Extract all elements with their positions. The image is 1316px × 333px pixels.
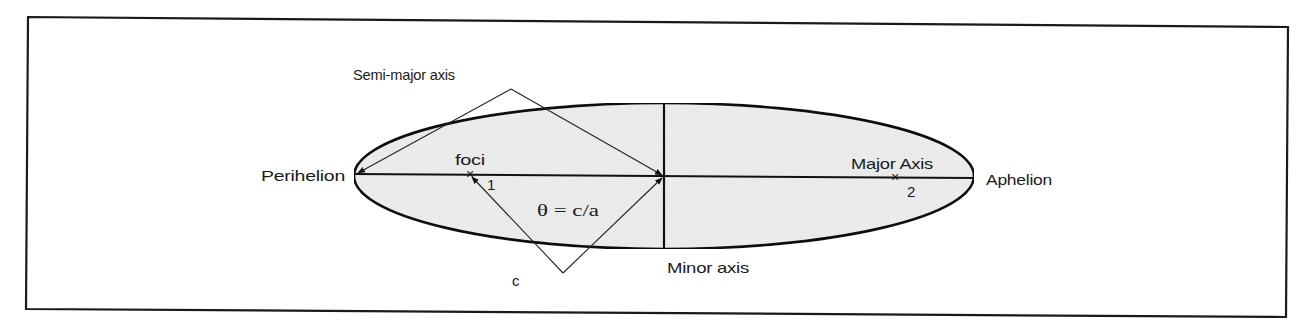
diagram-canvas: × × Semi-major axis Perihelion Aphelion … (0, 0, 1316, 333)
aphelion-label: Aphelion (986, 171, 1052, 188)
focus-1-marker-icon: × (466, 166, 474, 182)
c-label: c (512, 272, 520, 289)
focus-2-number: 2 (907, 183, 915, 200)
focus-1-number: 1 (487, 176, 495, 193)
minor-axis-label: Minor axis (667, 259, 749, 276)
major-axis-label: Major Axis (851, 155, 933, 172)
perihelion-label: Perihelion (261, 167, 345, 184)
eccentricity-equation: θ = c/a (537, 201, 600, 220)
semi-major-axis-label: Semi-major axis (353, 66, 455, 83)
orbit-ellipse-diagram: × × Semi-major axis Perihelion Aphelion … (0, 0, 1316, 333)
foci-label: foci (455, 151, 485, 168)
